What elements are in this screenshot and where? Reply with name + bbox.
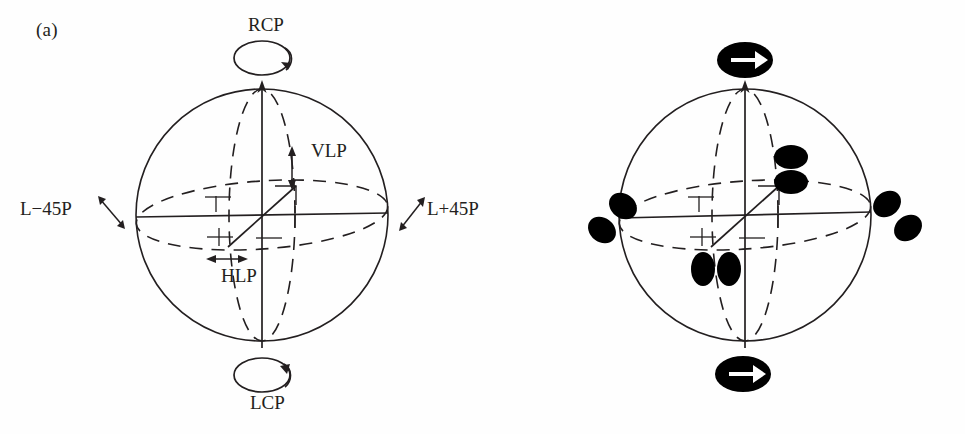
donut-icon-bottom (715, 356, 771, 392)
lm45p-double-arrow-icon (98, 196, 125, 229)
label-lcp: LCP (250, 392, 285, 414)
panel-a-drawing (0, 0, 483, 434)
figure-canvas: (a) RCP LCP L−45P L+45P VLP HLP (0, 0, 965, 434)
label-l-minus-45p: L−45P (20, 198, 72, 220)
lobe-pair-right (868, 185, 927, 246)
label-vlp: VLP (311, 140, 347, 162)
label-hlp: HLP (221, 265, 257, 287)
label-l-plus-45p: L+45P (427, 198, 479, 220)
lobe-pair-lower-left (691, 252, 741, 286)
lobe-pair-upper-right (774, 145, 808, 194)
panel-b-drawing (483, 0, 965, 434)
rcp-ellipse-icon (234, 41, 292, 75)
donut-icon-top (717, 42, 773, 78)
label-rcp: RCP (248, 14, 284, 36)
panel-a: (a) RCP LCP L−45P L+45P VLP HLP (0, 0, 483, 434)
lp45p-double-arrow-icon (399, 197, 425, 231)
hlp-double-arrow-icon (206, 255, 248, 263)
lcp-ellipse-icon (234, 358, 291, 392)
vlp-double-arrow-icon (288, 146, 296, 190)
panel-b: (b) ℓ = 1 ℓ = −1 m= 1, n= 0 (483, 0, 965, 434)
panel-a-tag: (a) (36, 19, 58, 41)
